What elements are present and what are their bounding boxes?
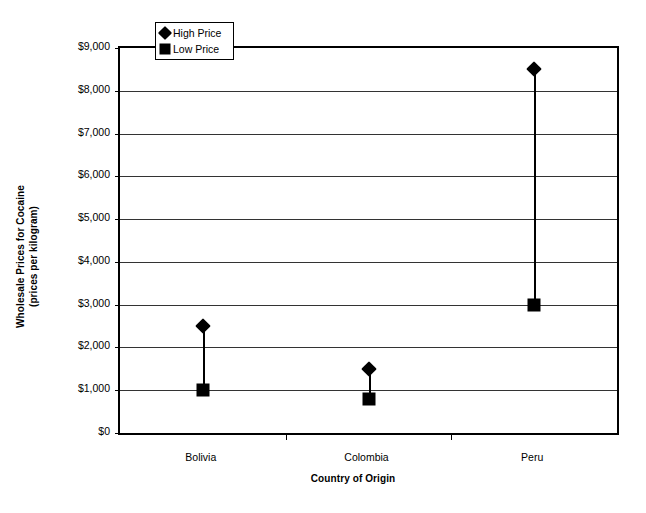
x-axis-category-label: Bolivia — [185, 451, 216, 463]
y-axis-title-line1: Wholesale Prices for Cocaine — [14, 185, 27, 328]
data-point-diamond — [195, 318, 211, 334]
y-axis-tick-label: $1,000 — [42, 383, 110, 394]
y-axis-tick — [115, 134, 120, 135]
price-range-stem — [203, 326, 205, 390]
y-axis-tick — [115, 176, 120, 177]
y-axis-tick — [115, 390, 120, 391]
x-axis-tick — [451, 433, 452, 440]
chart-figure: Wholesale Prices for Cocaine (prices per… — [0, 0, 646, 513]
data-point-square — [362, 392, 375, 405]
gridline — [120, 262, 617, 263]
x-axis-category-label: Peru — [521, 451, 543, 463]
data-point-diamond — [361, 361, 377, 377]
gridline — [120, 347, 617, 348]
gridline — [120, 176, 617, 177]
y-axis-tick — [115, 91, 120, 92]
y-axis-tick — [115, 262, 120, 263]
legend-item: Low Price — [159, 41, 231, 57]
x-axis-title: Country of Origin — [0, 473, 646, 484]
data-point-square — [196, 384, 209, 397]
data-point-diamond — [526, 62, 542, 78]
y-axis-tick-label: $0 — [42, 426, 110, 437]
y-axis-tick-label: $8,000 — [42, 83, 110, 94]
gridline — [120, 91, 617, 92]
legend-item-label: High Price — [173, 27, 221, 39]
y-axis-title: Wholesale Prices for Cocaine (prices per… — [0, 0, 40, 513]
gridline — [120, 305, 617, 306]
price-range-stem — [534, 69, 536, 304]
data-point-square — [528, 298, 541, 311]
legend-item: High Price — [159, 25, 231, 41]
gridline — [120, 134, 617, 135]
y-axis-tick — [115, 347, 120, 348]
y-axis-tick-label: $7,000 — [42, 126, 110, 137]
legend-item-label: Low Price — [173, 43, 219, 55]
gridline — [120, 219, 617, 220]
y-axis-tick-label: $9,000 — [42, 41, 110, 52]
y-axis-tick-labels: $0$1,000$2,000$3,000$4,000$5,000$6,000$7… — [42, 0, 110, 513]
y-axis-title-line2: (prices per kilogram) — [27, 185, 40, 328]
plot-area — [118, 46, 619, 435]
y-axis-tick — [115, 305, 120, 306]
y-axis-tick-label: $4,000 — [42, 254, 110, 265]
y-axis-tick — [115, 433, 120, 434]
x-axis-category-label: Colombia — [344, 451, 388, 463]
y-axis-tick — [115, 219, 120, 220]
square-marker-icon — [159, 43, 171, 55]
y-axis-tick-label: $6,000 — [42, 169, 110, 180]
diamond-marker-icon — [159, 27, 171, 39]
chart-legend: High PriceLow Price — [155, 22, 234, 60]
y-axis-tick-label: $2,000 — [42, 340, 110, 351]
y-axis-tick-label: $5,000 — [42, 212, 110, 223]
x-axis-title-text: Country of Origin — [311, 473, 395, 484]
y-axis-tick-label: $3,000 — [42, 297, 110, 308]
y-axis-tick — [115, 48, 120, 49]
x-axis-tick — [286, 433, 287, 440]
